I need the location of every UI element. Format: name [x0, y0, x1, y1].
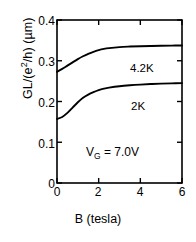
chart-figure: GL/(e2/h) (µm) 0.4 0.3 0.2 0.1 0 0 2 4 6…	[0, 0, 196, 242]
axis-frame	[57, 20, 182, 183]
curve-4p2k	[57, 45, 182, 71]
data-curves	[57, 45, 182, 119]
axis-ticks	[57, 20, 182, 183]
plot-area	[0, 0, 196, 242]
curve-2k	[57, 83, 182, 119]
